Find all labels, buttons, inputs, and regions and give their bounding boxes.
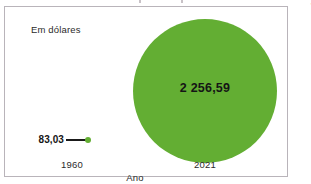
x-axis-title: Ano [105,172,165,183]
unit-caption: Em dólares [31,24,81,35]
bubble-2021[interactable]: 2 256,59 [133,19,277,163]
bubble-2021-value-label: 2 256,59 [133,81,277,95]
cropped-title-artifact [0,0,311,5]
x-tick-label-2021: 2021 [186,159,224,170]
bubble-1960[interactable] [85,137,91,143]
bubble-1960-value-label: 83,03 [5,134,64,145]
image-credit: Adilson Secco/ID/BR [310,0,311,6]
chart-frame: Em dólares 2 256,59 83,03 1960 2021 Ano [4,6,288,177]
x-tick-label-1960: 1960 [53,159,91,170]
